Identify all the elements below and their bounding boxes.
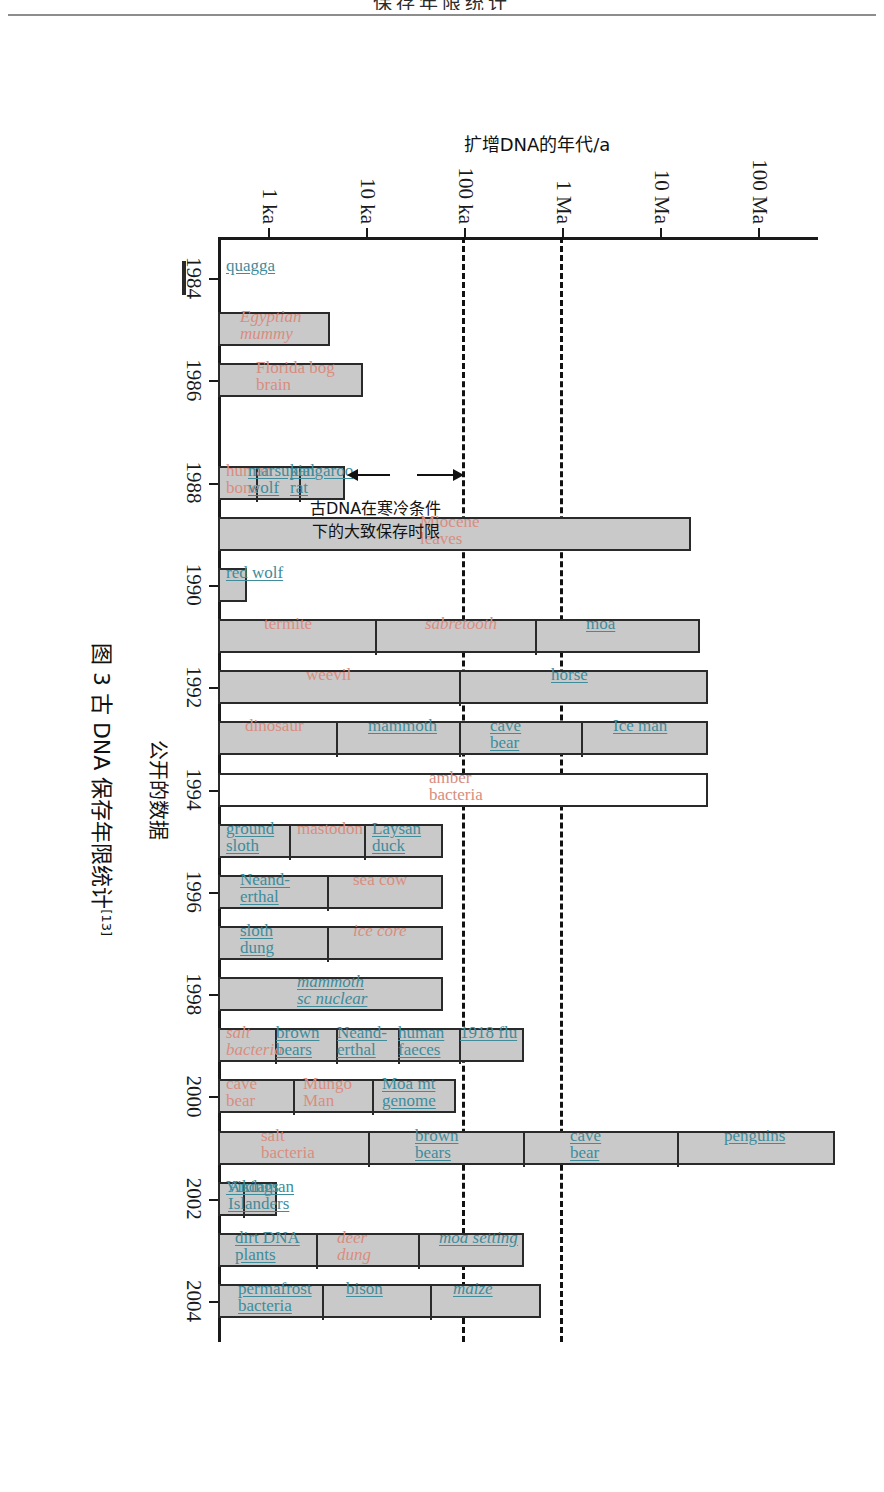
bar-label: bison	[346, 1280, 383, 1297]
bar-label: moa setting	[439, 1229, 518, 1246]
bar-1992	[218, 670, 708, 704]
bar-segment-divider	[523, 1133, 525, 1167]
header-divider-rule	[8, 14, 876, 16]
bar-label: Neand-erthal	[240, 871, 290, 906]
bar-segment-divider	[375, 621, 377, 655]
bar-segment-divider	[430, 1286, 432, 1320]
bar-label: sabretooth	[425, 615, 497, 632]
bar-label: cavebear	[226, 1075, 257, 1110]
bar-label: saltbacteria	[261, 1127, 315, 1162]
x-axis-tick-label: 2000	[181, 1075, 206, 1117]
y-axis-tick	[758, 228, 760, 237]
x-axis-tick	[209, 278, 218, 280]
bar-label: Egyptianmummy	[240, 308, 301, 343]
y-axis-tick	[464, 228, 466, 237]
bar-label: brownbears	[415, 1127, 458, 1162]
cropped-page-heading: 保存年限统计	[0, 0, 884, 10]
figure-stage-wrapper: 100 Ma10 Ma1 Ma100 ka10 ka1 ka 198419861…	[0, 22, 884, 1492]
bar-segment-divider	[459, 723, 461, 757]
x-axis-tick	[209, 380, 218, 382]
bar-segment-divider	[418, 1235, 420, 1269]
bar-label: MungoMan	[303, 1075, 352, 1110]
bar-label: maize	[453, 1280, 493, 1297]
bar-label: Laysanduck	[372, 820, 421, 855]
bar-label: amberbacteria	[429, 769, 483, 804]
bar-label: kangaroorat	[290, 462, 353, 497]
bar-segment-divider	[535, 621, 537, 655]
x-axis-tick	[209, 790, 218, 792]
bar-label: red wolf	[226, 564, 283, 581]
bar-label: saltbacteria	[226, 1024, 283, 1059]
x-axis-tick-label: 1986	[181, 359, 206, 401]
chart-plot-area: 100 Ma10 Ma1 Ma100 ka10 ka1 ka 198419861…	[218, 237, 818, 1342]
bar-label: horse	[551, 666, 588, 683]
bar-segment-divider	[581, 723, 583, 757]
y-axis-tick	[562, 228, 564, 237]
y-axis-tick-label: 100 ka	[453, 104, 478, 224]
bar-label: deerdung	[337, 1229, 371, 1264]
x-axis-tick	[209, 687, 218, 689]
x-axis-tick-label: 2002	[181, 1178, 206, 1220]
x-axis-tick-label: 2004	[181, 1280, 206, 1322]
bar-1984	[182, 261, 186, 295]
bar-segment-divider	[459, 672, 461, 706]
bar-label: ice core	[353, 922, 407, 939]
bar-segment-divider	[364, 826, 366, 860]
y-axis-tick	[660, 228, 662, 237]
bar-label: quagga	[226, 257, 275, 274]
bar-label: humanfaeces	[398, 1024, 444, 1059]
bar-label: Florida bogbrain	[256, 359, 335, 394]
x-axis-title: 公开的数据	[145, 237, 174, 1342]
y-axis-line	[218, 237, 818, 240]
bar-segment-divider	[293, 1081, 295, 1115]
bar-label: Neand-erthal	[337, 1024, 387, 1059]
x-axis-tick	[209, 585, 218, 587]
annotation-text: 古DNA在寒冷条件下的大致保存时限	[310, 497, 441, 543]
y-axis-tick-label: 10 Ma	[649, 104, 674, 224]
rotated-figure-stage: 100 Ma10 Ma1 Ma100 ka10 ka1 ka 198419861…	[42, 87, 842, 1427]
bar-segment-divider	[289, 826, 291, 860]
x-axis-tick-label: 1996	[181, 871, 206, 913]
bar-label: termite	[264, 615, 312, 632]
y-axis-tick-label: 100 Ma	[747, 104, 772, 224]
bar-label: mammoth	[368, 717, 437, 734]
x-axis-tick-label: 1988	[181, 462, 206, 504]
bar-segment-divider	[677, 1133, 679, 1167]
bar-label: weevil	[306, 666, 351, 683]
x-axis-tick	[209, 892, 218, 894]
bar-label: Ice man	[613, 717, 667, 734]
bar-segment-divider	[372, 1081, 374, 1115]
annotation-stem-top	[417, 474, 453, 476]
x-axis-tick	[209, 1096, 218, 1098]
x-axis-tick	[209, 1301, 218, 1303]
annotation-arrow-down	[347, 469, 358, 481]
annotation-stem-bottom	[354, 474, 390, 476]
bar-segment-divider	[316, 1235, 318, 1269]
bar-label: Moa mtgenome	[382, 1075, 436, 1110]
y-axis-title: 扩增DNA的年代/a	[377, 130, 697, 156]
bar-label: sea cow	[353, 871, 407, 888]
bar-label: groundsloth	[226, 820, 274, 855]
annotation-arrow-up	[453, 469, 464, 481]
bar-label: moa	[586, 615, 615, 632]
bar-label: permafrostbacteria	[238, 1280, 312, 1315]
bar-label: AndamanIslanders	[228, 1178, 294, 1213]
bar-segment-divider	[322, 1286, 324, 1320]
bar-label: brownbears	[276, 1024, 319, 1059]
figure-caption: 图 3 古 DNA 保存年限统计[13]	[88, 237, 120, 1342]
x-axis-tick-label: 1992	[181, 666, 206, 708]
y-axis-tick	[268, 228, 270, 237]
bar-segment-divider	[327, 877, 329, 911]
x-axis-tick	[209, 1199, 218, 1201]
bar-label: mastodon	[297, 820, 363, 837]
bar-label: 1918 flu	[460, 1024, 517, 1041]
bar-segment-divider	[327, 928, 329, 962]
y-axis-tick-label: 1 ka	[257, 104, 282, 224]
x-axis-tick-label: 1994	[181, 769, 206, 811]
bar-label: dinosaur	[245, 717, 304, 734]
bar-label: cavebear	[570, 1127, 601, 1162]
caption-reference-marker: [13]	[99, 909, 114, 936]
x-axis-tick-label: 1990	[181, 564, 206, 606]
bar-label: penguins	[724, 1127, 785, 1144]
bar-segment-divider	[368, 1133, 370, 1167]
